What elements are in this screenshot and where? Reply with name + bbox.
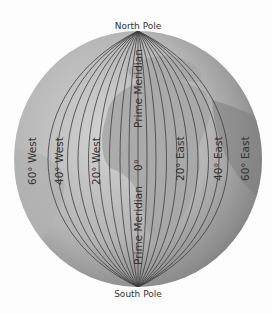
meridian-label-60-east: 60° East <box>239 136 251 181</box>
meridian-label-20-west: 20° West <box>90 137 102 185</box>
meridian-label-60-west: 60° West <box>26 137 38 185</box>
prime-meridian-upper-label: Prime Meridian <box>132 49 144 128</box>
meridian-label-40-east: 40° East <box>212 136 224 181</box>
meridian-label-40-west: 40° West <box>53 137 65 185</box>
north-pole-label: North Pole <box>115 21 162 31</box>
globe-diagram: North Pole South Pole Prime Meridian 0° … <box>0 0 272 313</box>
prime-meridian-lower-label: Prime Meridian <box>132 186 144 265</box>
meridian-label-20-east: 20° East <box>174 136 186 181</box>
south-pole-label: South Pole <box>114 289 162 299</box>
prime-meridian-degree-label: 0° <box>132 159 144 171</box>
